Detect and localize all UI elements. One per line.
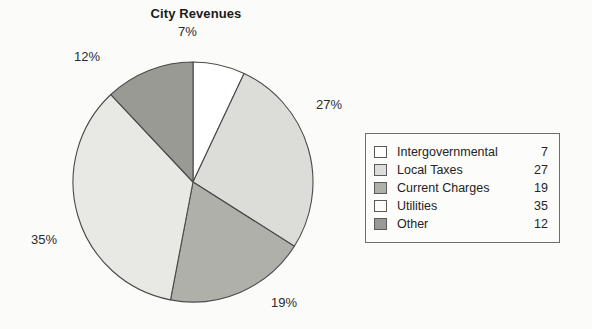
legend-swatch-icon [374,182,387,194]
pie-label-current-charges: 19% [271,295,297,310]
legend-item-intergovernmental: Intergovernmental 7 [374,143,548,161]
legend-item-value: 12 [526,217,548,231]
legend-item-local-taxes: Local Taxes 27 [374,161,548,179]
chart-page: City Revenues 7% 27% 19% 35% 12% Intergo… [0,0,592,329]
legend-item-value: 27 [526,163,548,177]
pie-label-other: 12% [74,49,100,64]
legend-item-label: Other [397,217,526,231]
legend-swatch-icon [374,200,387,212]
pie-chart-svg [0,0,360,329]
pie-label-utilities: 35% [31,232,57,247]
legend-swatch-icon [374,164,387,176]
legend-item-label: Intergovernmental [397,145,526,159]
legend-item-other: Other 12 [374,215,548,233]
legend-item-label: Utilities [397,199,526,213]
legend-item-value: 35 [526,199,548,213]
pie-label-local-taxes: 27% [316,97,342,112]
legend-item-value: 7 [526,145,548,159]
pie-label-intergovernmental: 7% [178,24,197,39]
pie-chart: 7% 27% 19% 35% 12% [0,0,360,329]
legend-item-current-charges: Current Charges 19 [374,179,548,197]
legend-item-utilities: Utilities 35 [374,197,548,215]
legend-item-value: 19 [526,181,548,195]
chart-legend: Intergovernmental 7 Local Taxes 27 Curre… [365,133,560,243]
pie-slice-group [73,62,313,302]
legend-item-label: Local Taxes [397,163,526,177]
legend-item-label: Current Charges [397,181,526,195]
legend-swatch-icon [374,146,387,158]
legend-swatch-icon [374,218,387,230]
